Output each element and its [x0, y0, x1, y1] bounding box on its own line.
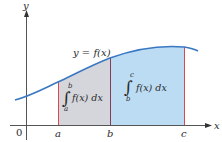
integral-right-integrand: f(x) dx — [135, 82, 167, 93]
x-axis-arrow-icon — [205, 123, 212, 128]
integral-diagram: y x 0 a b c y = f(x) ∫ b a f(x) dx ∫ c b… — [0, 0, 222, 142]
integral-right-upper: c — [130, 71, 134, 79]
integral-sign-right: ∫ — [124, 77, 133, 97]
y-axis-label: y — [22, 0, 29, 11]
integral-left-integrand: f(x) dx — [71, 92, 103, 103]
origin-label: 0 — [16, 127, 22, 138]
tick-label-c: c — [181, 128, 187, 139]
tick-label-b: b — [107, 128, 113, 139]
tick-label-a: a — [55, 128, 61, 139]
curve-label: y = f(x) — [72, 47, 111, 58]
integral-left-upper: b — [68, 82, 73, 90]
integral-left-lower: a — [64, 105, 68, 113]
y-axis-arrow-icon — [24, 10, 29, 17]
x-axis-label: x — [214, 120, 220, 131]
integral-right-lower: b — [126, 95, 131, 103]
